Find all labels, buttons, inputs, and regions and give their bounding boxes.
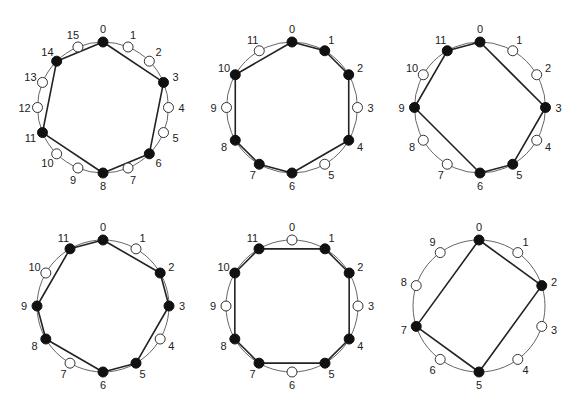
node-label: 6: [289, 180, 295, 192]
node-label: 3: [179, 300, 185, 312]
node-label: 9: [398, 102, 404, 114]
node-label: 4: [357, 340, 363, 352]
empty-node: [435, 354, 445, 364]
node-label: 11: [247, 34, 258, 46]
filled-node: [230, 268, 240, 278]
node-label: 0: [476, 221, 482, 233]
node-label: 11: [58, 232, 69, 244]
node-label: 2: [357, 62, 363, 74]
node-label: 10: [406, 62, 418, 74]
filled-node: [537, 281, 547, 291]
inscribed-polygon: [235, 42, 348, 173]
node-label: 1: [328, 34, 334, 46]
node-label: 4: [168, 340, 174, 352]
filled-node: [344, 334, 354, 344]
empty-node: [164, 103, 174, 113]
filled-node: [230, 70, 240, 80]
node-label: 8: [32, 340, 38, 352]
filled-node: [41, 334, 51, 344]
filled-node: [65, 244, 75, 254]
empty-node: [513, 248, 523, 258]
node-label: 10: [218, 62, 230, 74]
outer-circle: [37, 240, 169, 372]
node-label: 1: [522, 236, 528, 248]
filled-node: [442, 46, 452, 56]
filled-node: [344, 268, 354, 278]
circle-diagram-6: 0123456789: [401, 221, 557, 391]
filled-node: [541, 103, 551, 113]
empty-node: [320, 159, 330, 169]
node-label: 0: [289, 23, 295, 35]
node-label: 0: [289, 221, 295, 233]
empty-node: [287, 367, 297, 377]
node-label: 8: [221, 340, 227, 352]
inscribed-polygon: [415, 42, 546, 173]
node-label: 7: [249, 368, 255, 380]
node-label: 11: [435, 34, 446, 46]
filled-node: [474, 235, 484, 245]
inscribed-polygon: [235, 249, 349, 363]
filled-node: [230, 334, 240, 344]
empty-node: [144, 56, 154, 66]
filled-node: [475, 37, 485, 47]
filled-node: [344, 70, 354, 80]
node-label: 12: [18, 102, 30, 114]
filled-node: [320, 244, 330, 254]
filled-node: [98, 37, 108, 47]
empty-node: [73, 42, 83, 52]
node-label: 4: [178, 102, 184, 114]
node-label: 8: [401, 276, 407, 288]
empty-node: [73, 163, 83, 173]
filled-node: [155, 268, 165, 278]
node-label: 1: [328, 232, 334, 244]
node-label: 5: [476, 379, 482, 391]
figure-canvas: 0123456789101112131415012345678910110123…: [0, 0, 579, 406]
empty-node: [254, 46, 264, 56]
node-label: 9: [429, 236, 435, 248]
filled-node: [32, 301, 42, 311]
node-label: 0: [100, 221, 106, 233]
filled-node: [410, 103, 420, 113]
node-label: 4: [357, 141, 363, 153]
empty-node: [65, 358, 75, 368]
node-label: 4: [522, 364, 528, 376]
empty-node: [353, 103, 363, 113]
node-label: 3: [551, 324, 557, 336]
filled-node: [475, 168, 485, 178]
node-label: 3: [367, 102, 373, 114]
circle-diagram-3: 01234567891011: [398, 23, 561, 192]
inscribed-polygon: [37, 240, 169, 372]
inscribed-polygon: [416, 240, 542, 372]
node-label: 3: [555, 102, 561, 114]
node-label: 5: [328, 169, 334, 181]
empty-node: [37, 77, 47, 87]
node-label: 5: [172, 132, 178, 144]
node-label: 4: [545, 141, 551, 153]
outer-circle: [226, 240, 358, 372]
node-label: 8: [100, 180, 106, 192]
node-label: 3: [172, 71, 178, 83]
node-label: 14: [41, 46, 53, 58]
circle-diagram-1: 0123456789101112131415: [18, 23, 184, 192]
filled-node: [254, 159, 264, 169]
node-label: 8: [409, 141, 415, 153]
empty-node: [353, 301, 363, 311]
filled-node: [159, 77, 169, 87]
empty-node: [411, 281, 421, 291]
node-label: 10: [28, 261, 40, 273]
node-label: 11: [25, 132, 36, 144]
node-label: 10: [217, 261, 229, 273]
node-label: 5: [328, 368, 334, 380]
node-label: 6: [155, 157, 161, 169]
node-label: 0: [100, 23, 106, 35]
node-label: 3: [368, 300, 374, 312]
empty-node: [159, 128, 169, 138]
node-label: 2: [357, 261, 363, 273]
filled-node: [98, 168, 108, 178]
node-label: 2: [155, 46, 161, 58]
outer-circle: [413, 240, 545, 372]
filled-node: [474, 367, 484, 377]
filled-node: [37, 128, 47, 138]
filled-node: [98, 367, 108, 377]
filled-node: [320, 46, 330, 56]
